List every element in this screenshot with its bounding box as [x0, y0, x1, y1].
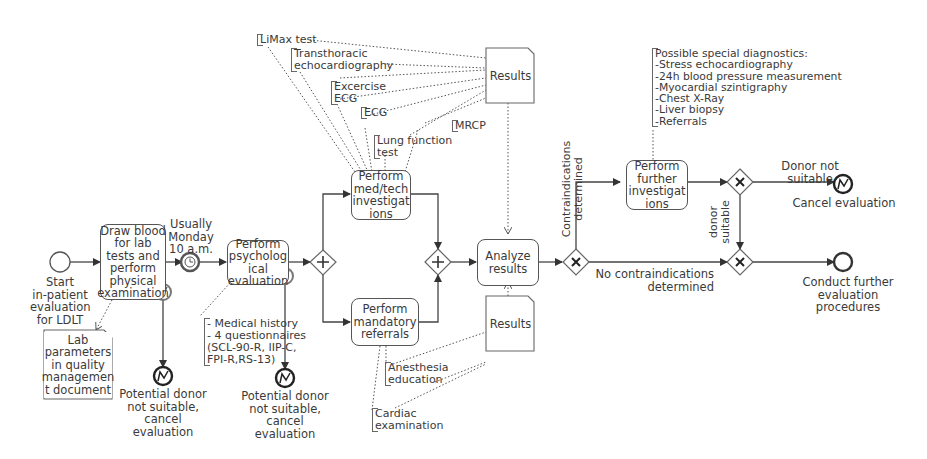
annotation-exercise-ecg: Excercise ECG [331, 81, 386, 105]
exclusive-gateway-suitability [727, 169, 753, 195]
parallel-gateway-join [425, 249, 451, 275]
flow-fork-medtech [323, 194, 350, 250]
task-mandatory-referrals[interactable]: Perform mandatory referrals [351, 298, 419, 346]
flow-label-no-contraindications: No contraindications determined [594, 268, 714, 293]
end-event [834, 253, 852, 271]
end-label-conduct: Conduct further evaluation procedures [788, 276, 908, 314]
annotation-cardiac: Cardiac examination [372, 408, 443, 432]
flow-fork-referrals [323, 274, 350, 322]
flow-label-contraindications: Contraindications determined [561, 137, 587, 241]
annotation-limax: LiMax test [257, 34, 317, 46]
flow-label-donor-suitable: donor suitable [708, 196, 734, 248]
annotation-anesthesia: Anesthesia education [385, 362, 449, 386]
task-med-tech-investigations[interactable]: Perform med/tech investigat ions [351, 170, 411, 220]
task-analyze-results[interactable]: Analyze results [477, 239, 539, 286]
flow-label-donor-not-suitable: Donor not suitable [780, 160, 840, 185]
end-label-cancel-1: Potential donor not suitable, cancel eva… [113, 388, 213, 438]
annotation-mrcp: MRCP [452, 120, 486, 132]
annotation-tte: Transthoracic echocardiography [291, 48, 393, 72]
task-further-investigations[interactable]: Perform further investigat ions [626, 160, 688, 210]
start-event [50, 252, 70, 272]
error-end-event-icon-1 [154, 367, 172, 385]
annotation-psych: - Medical history - 4 questionnaires (SC… [204, 318, 306, 366]
doc-results-bottom: Results [487, 298, 534, 350]
end-label-cancel-2: Potential donor not suitable, cancel eva… [235, 390, 335, 440]
timer-event-label: Usually Monday 10 a.m. [166, 218, 216, 256]
error-end-event-icon-2 [276, 369, 294, 387]
task-draw-blood[interactable]: Draw blood for lab tests and perform phy… [100, 224, 166, 300]
annotation-ecg: ECG [361, 107, 387, 119]
doc-results-top: Results [487, 50, 534, 102]
annotation-lung-function: Lung function test [374, 135, 452, 159]
start-event-label: Start in-patient evaluation for LDLT [30, 276, 90, 326]
exclusive-gateway-contraindications [563, 249, 589, 275]
annotation-special-diagnostics: Possible special diagnostics: -Stress ec… [652, 48, 842, 127]
end-label-cancel-3: Cancel evaluation [784, 197, 904, 210]
task-psych-evaluation[interactable]: Perform psycholog ical evaluation [227, 240, 289, 285]
flow-referrals-join [418, 275, 438, 322]
parallel-gateway-fork [310, 250, 336, 275]
doc-lab-parameters: Lab parameters in quality managemen t do… [44, 332, 112, 398]
flow-medtech-join [410, 194, 438, 249]
exclusive-gateway-merge [727, 249, 753, 275]
